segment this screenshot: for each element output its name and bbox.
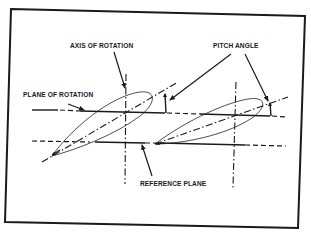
right-axis-of-rotation xyxy=(233,82,236,188)
right-chord-line xyxy=(155,97,288,144)
right-pitch-angle-marker xyxy=(268,102,272,116)
axis-of-rotation-leader xyxy=(114,52,125,88)
pitch-angle-leader-right xyxy=(245,54,268,101)
left-airfoil xyxy=(52,92,152,156)
pitch-angle-leader-left xyxy=(170,54,231,100)
diagram-frame xyxy=(5,9,305,228)
left-pitch-angle-marker xyxy=(163,93,167,113)
plane-of-rotation-label: PLANE OF ROTATION xyxy=(23,91,93,98)
propeller-pitch-diagram: AXIS OF ROTATION PITCH ANGLE PLANE OF RO… xyxy=(0,0,311,238)
axis-of-rotation-label: AXIS OF ROTATION xyxy=(70,42,133,49)
reference-plane-leader xyxy=(142,145,152,176)
left-axis-of-rotation xyxy=(125,74,126,184)
plane-of-rotation-leader xyxy=(68,104,84,110)
pitch-angle-label: PITCH ANGLE xyxy=(213,42,259,49)
right-airfoil xyxy=(155,99,263,144)
reference-plane-label: REFERENCE PLANE xyxy=(140,180,207,187)
